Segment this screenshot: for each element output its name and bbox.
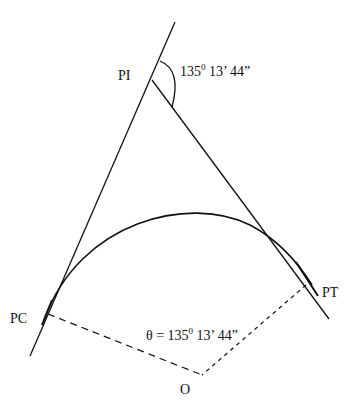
deflection-angle-label: 1350 13’ 44” [180,62,250,79]
radius-pc-o [48,314,202,375]
forward-tangent-line [152,80,329,319]
central-angle-label: θ = 1350 13’ 44” [146,326,238,343]
label-pi: PI [118,68,131,83]
label-o: O [180,382,190,397]
circular-curve [44,213,312,320]
curve-diagram: PI PC PT O 1350 13’ 44” θ = 1350 13’ 44” [0,0,355,416]
label-pc: PC [10,311,27,326]
pc-contact-segment [42,300,52,325]
back-tangent-line [30,22,175,356]
label-pt: PT [322,285,339,300]
